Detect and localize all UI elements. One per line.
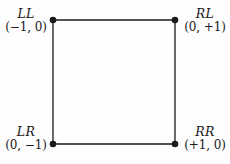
vertex-label-bottom-left: LR (0, −1) [4,125,48,152]
vertex-code-top-left: LL [4,7,48,21]
vertex-code-bottom-left: LR [4,125,48,139]
square-diagram: LL (−1, 0) RL (0, +1) LR (0, −1) RR (+1,… [0,0,230,164]
vertex-dot-bottom-left [50,141,57,148]
vertex-dot-top-left [50,17,57,24]
vertex-label-top-left: LL (−1, 0) [4,7,48,34]
vertex-code-bottom-right: RR [181,125,229,139]
vertex-label-bottom-right: RR (+1, 0) [181,125,229,152]
vertex-coord-top-left: (−1, 0) [4,21,48,34]
vertex-coord-top-right: (0, +1) [181,21,229,34]
vertex-dot-bottom-right [172,141,179,148]
vertex-coord-bottom-right: (+1, 0) [181,139,229,152]
vertex-coord-bottom-left: (0, −1) [4,139,48,152]
vertex-label-top-right: RL (0, +1) [181,7,229,34]
vertex-dot-top-right [172,17,179,24]
vertex-code-top-right: RL [181,7,229,21]
